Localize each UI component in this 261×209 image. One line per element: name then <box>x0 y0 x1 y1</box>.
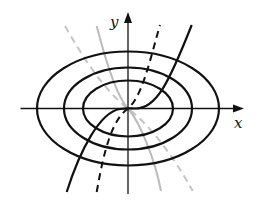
x-axis-arrow-icon <box>233 105 244 113</box>
y-axis-arrow-icon <box>124 12 132 23</box>
phase-portrait-diagram: y x <box>0 0 261 209</box>
y-axis-label: y <box>109 13 119 31</box>
x-axis-label: x <box>234 114 243 132</box>
